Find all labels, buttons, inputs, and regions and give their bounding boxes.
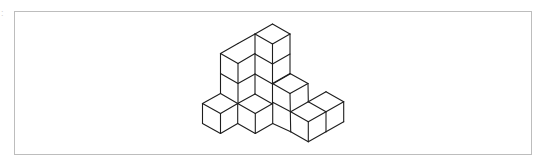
cube-edge — [308, 112, 326, 122]
corner-mark: : — [1, 9, 4, 18]
cube-edge — [273, 54, 291, 64]
cube-edge — [326, 92, 344, 102]
cube-edge — [238, 124, 256, 134]
cube-edge — [255, 104, 272, 114]
cube-edge — [238, 74, 255, 84]
cube-edge — [291, 132, 309, 142]
figure-canvas: : — [0, 0, 540, 165]
cube-edge — [273, 84, 291, 94]
cube-edge — [273, 124, 291, 132]
cube-edge — [255, 124, 272, 134]
cube-edge — [221, 124, 238, 134]
cube-edge — [238, 94, 255, 104]
cube-edge — [221, 54, 239, 64]
cube-edge — [291, 112, 309, 122]
cube-edge — [221, 94, 238, 104]
cube-edge — [290, 94, 291, 132]
cube-edge — [308, 102, 326, 112]
cube-edge — [203, 124, 221, 134]
cube-edge — [273, 102, 291, 111]
cube-edge — [255, 94, 273, 104]
isometric-cubes-diagram — [0, 0, 540, 165]
cube-edge — [326, 102, 344, 112]
cube-edge — [326, 122, 344, 132]
cube-edge — [255, 54, 273, 64]
cube-edge — [203, 94, 221, 104]
cube-edge — [273, 34, 291, 44]
cube-edge — [238, 104, 256, 114]
cube-edge — [221, 44, 239, 54]
cube-edge — [221, 74, 239, 84]
cube-edge — [308, 132, 326, 142]
cube-edge — [291, 102, 309, 112]
cube-edge — [290, 84, 308, 94]
cube-edge — [290, 74, 308, 84]
cube-stack — [203, 24, 344, 142]
cube-edge — [238, 34, 255, 44]
cube-edge — [238, 54, 255, 64]
cube-edge — [255, 24, 273, 34]
cube-edge — [255, 74, 273, 84]
cube-edge — [308, 92, 326, 102]
cube-edge — [273, 24, 291, 34]
cube-edge — [273, 74, 291, 84]
cube-edge — [203, 104, 221, 114]
cube-edge — [221, 104, 238, 114]
cube-edge — [255, 34, 273, 44]
